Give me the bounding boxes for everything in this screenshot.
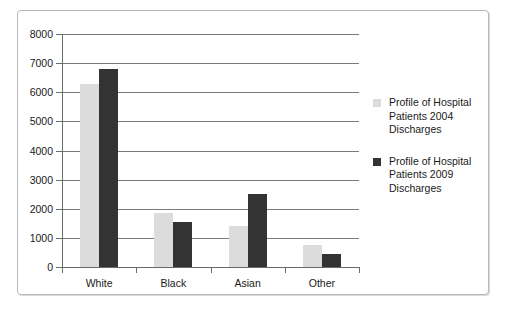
plot-area: 010002000300040005000600070008000 WhiteB… (62, 34, 359, 267)
y-axis-tick-label: 0 (47, 262, 53, 273)
bar-group (211, 34, 285, 267)
legend-entry[interactable]: Profile of Hospital Patients 2004 Discha… (373, 96, 485, 137)
y-axis-tick-label: 2000 (30, 204, 53, 215)
bar-group (285, 34, 359, 267)
bar (154, 213, 173, 267)
y-axis-tick-label: 1000 (30, 233, 53, 244)
y-axis-tick-label: 3000 (30, 174, 53, 185)
chart-legend: Profile of Hospital Patients 2004 Discha… (373, 96, 485, 213)
y-axis-tick-label: 5000 (30, 116, 53, 127)
legend-swatch-icon (373, 99, 381, 107)
bar (80, 84, 99, 267)
x-axis-category-label: Other (309, 278, 335, 289)
x-axis-category-label: Black (161, 278, 187, 289)
x-axis-tick (359, 267, 360, 273)
x-axis-tick (285, 267, 286, 273)
y-axis-tick-label: 7000 (30, 58, 53, 69)
bar (303, 245, 322, 267)
legend-label: Profile of Hospital Patients 2009 Discha… (389, 155, 485, 196)
chart-figure: 010002000300040005000600070008000 WhiteB… (17, 10, 489, 295)
bar (229, 226, 248, 267)
bar (99, 69, 118, 267)
bar (322, 254, 341, 267)
legend-swatch-icon (373, 158, 381, 166)
x-axis-tick (136, 267, 137, 273)
x-axis-category-label: Asian (234, 278, 260, 289)
x-axis-tick (62, 267, 63, 273)
bar-group (62, 34, 136, 267)
bar-group (136, 34, 210, 267)
legend-entry[interactable]: Profile of Hospital Patients 2009 Discha… (373, 155, 485, 196)
y-axis-tick-label: 6000 (30, 87, 53, 98)
x-axis-category-label: White (86, 278, 113, 289)
legend-label: Profile of Hospital Patients 2004 Discha… (389, 96, 485, 137)
y-axis-tick-label: 4000 (30, 145, 53, 156)
bar (248, 194, 267, 267)
y-axis-tick-label: 8000 (30, 29, 53, 40)
x-axis-tick (211, 267, 212, 273)
bar (173, 222, 192, 267)
